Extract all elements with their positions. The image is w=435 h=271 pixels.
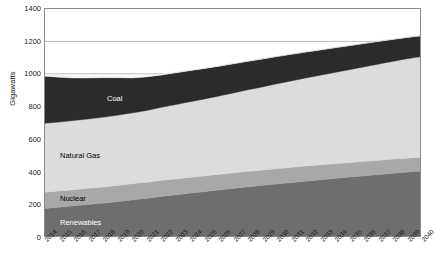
y-axis-tick-200: 200: [28, 200, 41, 209]
x-axis-tick-2040: 2040: [420, 228, 435, 243]
y-axis-tick-600: 600: [28, 134, 41, 143]
x-axis-tick-labels: 2014201520162017201820192020202120222023…: [44, 238, 421, 271]
y-axis-tick-labels: 0200400600800100012001400: [0, 0, 44, 271]
y-axis-tick-1000: 1000: [24, 69, 41, 78]
y-axis-tick-800: 800: [28, 102, 41, 111]
plot-area: CoalNatural GasNuclearRenewables: [44, 8, 421, 237]
y-axis-tick-1200: 1200: [24, 36, 41, 45]
y-axis-tick-400: 400: [28, 167, 41, 176]
y-axis-tick-0: 0: [37, 233, 41, 242]
y-axis-tick-1400: 1400: [24, 4, 41, 13]
plot-svg: [45, 9, 420, 236]
